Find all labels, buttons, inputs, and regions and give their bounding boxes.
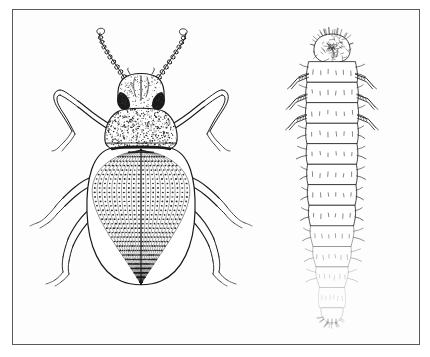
antenna-right-icon [156,29,188,80]
midleg-right-icon [186,176,252,228]
illustration-plate: adult beetle, dorsal view larva, dorsal … [0,0,430,357]
beetle-elytra [87,147,195,285]
larva-body-segments [305,62,358,308]
larva-head [310,27,353,64]
antenna-left-icon [97,28,128,80]
figure-larva [286,27,379,328]
figure-canvas [0,0,430,357]
figure-adult-beetle [30,28,252,286]
midleg-left-icon [30,176,96,228]
larva-terminal-segment [317,308,344,328]
